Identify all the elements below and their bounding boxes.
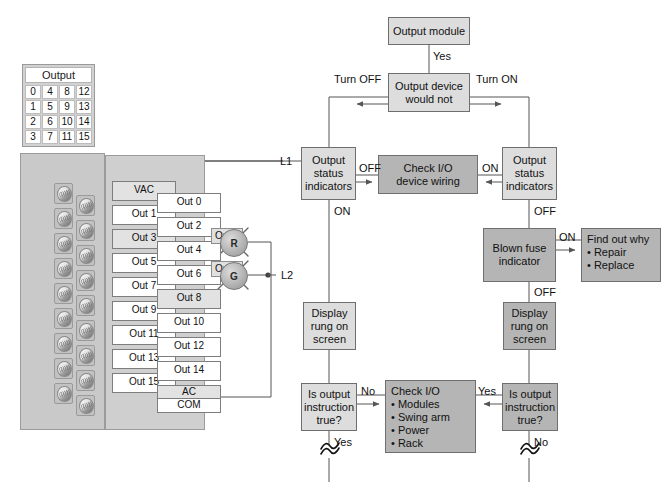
label-turn-off: Turn OFF (334, 73, 381, 85)
flow-status-left-label: Outputstatusindicators (305, 154, 352, 193)
flow-output-device-would-not[interactable]: Output devicewould not (388, 73, 470, 112)
flow-output-module[interactable]: Output module (388, 17, 470, 45)
table-cell: 13 (76, 100, 92, 114)
table-cell: 15 (76, 130, 92, 144)
screw-terminal-icon[interactable] (57, 336, 72, 352)
find-out-why-item: • Replace (587, 259, 634, 272)
flow-check-io-wiring-label: Check I/Odevice wiring (396, 162, 460, 188)
flow-status-right-label: Outputstatusindicators (506, 154, 553, 193)
flow-output-device-label: Output devicewould not (395, 80, 463, 106)
flow-check-io[interactable]: Check I/O • Modules • Swing arm • Power … (385, 380, 476, 453)
flow-output-status-indicators-left[interactable]: Outputstatusindicators (301, 147, 356, 200)
flow-is-output-left-label: Is outputinstructiontrue? (304, 388, 354, 427)
check-io-title: Check I/O (391, 385, 440, 398)
terminal-out-10: Out 10 (157, 313, 221, 333)
screw-terminal-icon[interactable] (79, 398, 94, 414)
screw-terminal-icon[interactable] (79, 198, 94, 214)
label-no-right-down: No (534, 436, 548, 448)
screw-terminal-icon[interactable] (79, 223, 94, 239)
label-off-left: OFF (359, 162, 381, 174)
label-l1: L1 (280, 155, 292, 167)
flow-display-rung-right-label: Displayrung onscreen (511, 307, 548, 346)
table-cell: 7 (42, 130, 58, 144)
table-cell: 2 (25, 115, 41, 129)
check-io-item: • Modules (391, 398, 440, 411)
flow-is-output-instruction-left[interactable]: Is outputinstructiontrue? (301, 383, 357, 431)
find-out-why-title: Find out why (587, 233, 649, 246)
terminal-out-4: Out 4 (157, 241, 221, 261)
screw-terminal-icon[interactable] (57, 286, 72, 302)
table-cell: 10 (59, 115, 75, 129)
diagram-canvas: Output 0 4 8 12 1 5 9 13 2 6 10 14 3 7 1… (0, 0, 670, 488)
flow-is-output-right-label: Is outputinstructiontrue? (505, 388, 555, 427)
table-cell: 9 (59, 100, 75, 114)
terminal-com: COM (157, 398, 221, 413)
flow-is-output-instruction-right[interactable]: Is outputinstructiontrue? (502, 383, 558, 431)
terminal-out-0: Out 0 (157, 193, 221, 213)
table-cell: 1 (25, 100, 41, 114)
terminal-out-12: Out 12 (157, 337, 221, 357)
lamp-green[interactable]: G (220, 262, 248, 290)
screw-terminal-icon[interactable] (57, 361, 72, 377)
table-cell: 3 (25, 130, 41, 144)
flow-display-rung-left-label: Displayrung onscreen (311, 307, 348, 346)
screw-terminal-icon[interactable] (79, 348, 94, 364)
flow-display-rung-left[interactable]: Displayrung onscreen (303, 302, 356, 350)
output-module-table: Output 0 4 8 12 1 5 9 13 2 6 10 14 3 7 1… (22, 64, 95, 147)
screw-terminal-icon[interactable] (57, 261, 72, 277)
flow-output-status-indicators-right[interactable]: Outputstatusindicators (502, 147, 557, 200)
flow-check-io-device-wiring[interactable]: Check I/Odevice wiring (378, 155, 478, 194)
screw-terminal-icon[interactable] (57, 386, 72, 402)
screw-terminal-icon[interactable] (79, 248, 94, 264)
screw-terminal-icon[interactable] (57, 211, 72, 227)
lamp-red[interactable]: R (220, 229, 248, 257)
label-turn-on: Turn ON (476, 73, 518, 85)
screw-terminal-icon[interactable] (57, 311, 72, 327)
table-cell: 6 (42, 115, 58, 129)
check-io-item: • Power (391, 424, 429, 437)
screw-terminal-icon[interactable] (57, 236, 72, 252)
terminal-out-8: Out 8 (157, 289, 221, 309)
find-out-why-item: • Repair (587, 246, 626, 259)
flow-blown-fuse-label: Blown fuseindicator (493, 242, 547, 268)
label-on-left-down: ON (334, 205, 351, 217)
table-cell: 0 (25, 85, 41, 99)
terminal-out-14: Out 14 (157, 361, 221, 381)
label-yes-right: Yes (478, 385, 496, 397)
screw-terminal-icon[interactable] (79, 373, 94, 389)
label-off-right-down: OFF (534, 205, 556, 217)
table-cell: 14 (76, 115, 92, 129)
screw-terminal-icon[interactable] (79, 323, 94, 339)
label-yes-left-down: Yes (334, 436, 352, 448)
table-cell: 8 (59, 85, 75, 99)
flow-find-out-why[interactable]: Find out why • Repair • Replace (581, 228, 661, 282)
label-blown-fuse-on: ON (559, 231, 576, 243)
table-cell: 4 (42, 85, 58, 99)
screw-terminal-icon[interactable] (57, 186, 72, 202)
flow-blown-fuse-indicator[interactable]: Blown fuseindicator (483, 228, 556, 282)
table-cell: 11 (59, 130, 75, 144)
check-io-item: • Swing arm (391, 411, 450, 424)
label-yes-top: Yes (433, 50, 451, 62)
flow-output-module-label: Output module (393, 25, 465, 38)
table-cell: 5 (42, 100, 58, 114)
check-io-item: • Rack (391, 437, 423, 450)
label-on-right: ON (482, 162, 499, 174)
label-no-left: No (361, 385, 375, 397)
label-l2: L2 (281, 269, 293, 281)
table-cell: 12 (76, 85, 92, 99)
screw-terminal-icon[interactable] (79, 273, 94, 289)
output-table-header: Output (25, 67, 92, 83)
output-table-grid: 0 4 8 12 1 5 9 13 2 6 10 14 3 7 11 15 (25, 85, 92, 144)
screw-terminal-icon[interactable] (79, 298, 94, 314)
flow-display-rung-right[interactable]: Displayrung onscreen (503, 302, 556, 350)
label-blown-fuse-off: OFF (534, 286, 556, 298)
